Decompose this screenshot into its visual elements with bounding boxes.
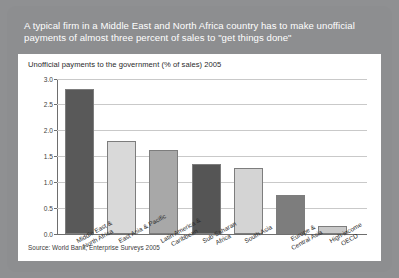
bar-series bbox=[58, 79, 367, 234]
headline-text: A typical firm in a Middle East and Nort… bbox=[24, 20, 376, 45]
source-note: Source: World Bank, Enterprise Surveys 2… bbox=[28, 244, 160, 251]
y-tick-label: 0.5 bbox=[44, 204, 53, 211]
x-axis-labels: Middle East &North AfricaEast Asia & Pac… bbox=[57, 236, 369, 276]
bar-5 bbox=[276, 195, 305, 234]
y-tick-mark bbox=[54, 234, 57, 235]
slide-card: A typical firm in a Middle East and Nort… bbox=[7, 6, 392, 272]
y-tick-label: 1.0 bbox=[44, 178, 53, 185]
bar-1 bbox=[107, 141, 136, 234]
y-tick-mark bbox=[54, 130, 57, 131]
y-tick-label: 0.0 bbox=[44, 230, 53, 237]
y-tick-mark bbox=[54, 208, 57, 209]
chart-panel: Unofficial payments to the government (%… bbox=[18, 54, 381, 261]
y-tick-label: 2.5 bbox=[44, 101, 53, 108]
y-tick-mark bbox=[54, 182, 57, 183]
plot-area: 0.00.51.01.52.02.53.0 bbox=[57, 79, 367, 234]
chart-title: Unofficial payments to the government (%… bbox=[28, 60, 221, 69]
y-tick-mark bbox=[54, 104, 57, 105]
y-tick-mark bbox=[54, 156, 57, 157]
y-tick-label: 3.0 bbox=[44, 75, 53, 82]
y-tick-label: 2.0 bbox=[44, 127, 53, 134]
y-tick-mark bbox=[54, 79, 57, 80]
y-tick-label: 1.5 bbox=[44, 153, 53, 160]
bar-4 bbox=[234, 168, 263, 234]
bar-0 bbox=[65, 89, 94, 234]
